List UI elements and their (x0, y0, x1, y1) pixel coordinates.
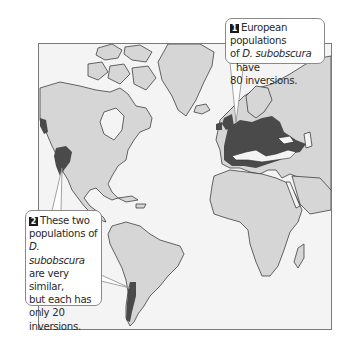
callout-text: but each has (29, 294, 91, 305)
callout-text: populations of (29, 228, 97, 239)
callout-text: 80 inversions. (230, 75, 297, 86)
callout-americas-populations: 2These two populations of D. subobscura … (25, 210, 102, 306)
callout-text: have (230, 62, 260, 73)
callout-line: are very similar, (29, 267, 98, 293)
species-name: D. subobscura (29, 241, 85, 265)
arctic-archipelago (88, 44, 156, 90)
callout-2-pointer-na (52, 168, 62, 211)
badge-number: 1 (230, 24, 239, 33)
callout-line: 2These two (29, 214, 98, 227)
callout-line: only 20 (29, 306, 98, 319)
south-america (108, 222, 184, 326)
callout-line: 1European populations (230, 21, 321, 47)
callout-text: only 20 (29, 307, 65, 318)
callout-line: 80 inversions. (230, 74, 321, 87)
badge-number: 2 (29, 217, 38, 226)
madagascar (294, 244, 304, 268)
callout-text: of (230, 48, 242, 59)
callout-text: inversions. (29, 321, 81, 332)
callout-text: These two (40, 215, 90, 226)
callout-european-populations: 1European populations of D. subobscura h… (225, 18, 325, 64)
callout-line: inversions. (29, 320, 98, 333)
callout-text: are very similar, (29, 268, 69, 292)
species-name: D. subobscura (242, 48, 311, 59)
iceland (194, 104, 210, 114)
callout-line: D. subobscura (29, 240, 98, 266)
callout-line: of D. subobscura have (230, 47, 321, 73)
callout-line: populations of (29, 227, 98, 240)
callout-line: but each has (29, 293, 98, 306)
